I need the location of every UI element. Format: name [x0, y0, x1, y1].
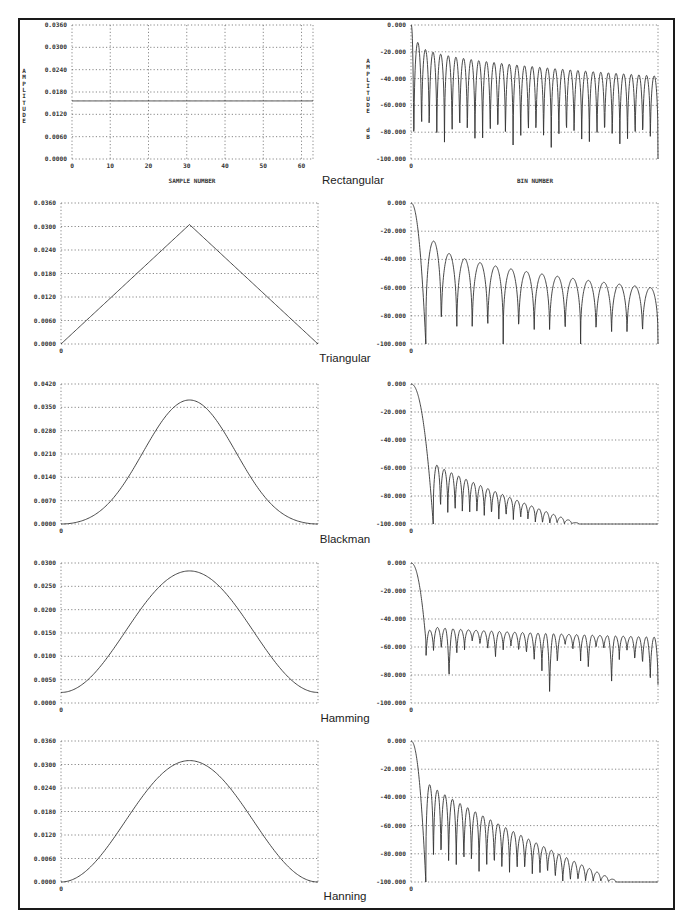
- y-tick-label-db: -40.000: [380, 436, 406, 443]
- x-tick-label: 50: [260, 162, 268, 169]
- y-tick-label: 0.0300: [34, 761, 57, 768]
- y-tick-label: 0.0240: [34, 246, 57, 253]
- y-tick-label: 0.0360: [45, 21, 68, 28]
- y-axis-label-char: B: [366, 133, 370, 140]
- y-tick-label: 0.0100: [34, 652, 57, 659]
- y-tick-label-db: -60.000: [380, 822, 406, 829]
- window-label-hanning: Hanning: [324, 890, 367, 902]
- y-tick-label-db: -40.000: [380, 75, 406, 82]
- y-tick-label: 0.0180: [45, 88, 68, 95]
- spectrum-curve: [411, 203, 658, 344]
- x-tick-label: 0: [59, 527, 63, 534]
- y-tick-label: 0.0240: [34, 784, 57, 791]
- chart-hamming-time: 0.03000.02500.02000.01500.01000.00500.00…: [34, 559, 318, 713]
- y-tick-label-db: 0.000: [387, 199, 406, 206]
- y-tick-label: 0.0300: [34, 223, 57, 230]
- y-tick-label-db: -20.000: [380, 227, 406, 234]
- y-tick-label: 0.0180: [34, 808, 57, 815]
- y-axis-label-char: E: [22, 117, 26, 124]
- spectrum-curve: [411, 25, 658, 159]
- x-tick-label: 60: [298, 162, 306, 169]
- window-label-triangular: Triangular: [319, 352, 371, 364]
- window-label-rectangular: Rectangular: [322, 174, 384, 186]
- y-tick-label-db: -80.000: [380, 128, 406, 135]
- y-tick-label: 0.0300: [34, 559, 57, 566]
- y-tick-label-db: -60.000: [380, 284, 406, 291]
- x-axis-label-bin-number: BIN NUMBER: [517, 177, 554, 184]
- x-tick-label: 0: [409, 527, 413, 534]
- x-tick-label: 20: [145, 162, 153, 169]
- y-tick-label-db: -80.000: [380, 671, 406, 678]
- x-tick-label: 0: [59, 347, 63, 354]
- x-tick-label: 0: [409, 347, 413, 354]
- y-tick-label: 0.0360: [34, 737, 57, 744]
- chart-blackman-spectrum: 0.000-20.000-40.000-60.000-80.000-100.00…: [376, 380, 658, 534]
- y-tick-label: 0.0120: [34, 831, 57, 838]
- y-tick-label: 0.0000: [45, 155, 68, 162]
- y-tick-label: 0.0060: [34, 317, 57, 324]
- y-tick-label: 0.0350: [34, 403, 57, 410]
- window-curve: [61, 400, 318, 524]
- y-tick-label-db: -100.000: [376, 340, 406, 347]
- x-axis-label-sample-number: SAMPLE NUMBER: [169, 177, 216, 184]
- y-tick-label: 0.0120: [45, 110, 68, 117]
- y-tick-label: 0.0240: [45, 66, 68, 73]
- y-tick-label-db: -60.000: [380, 101, 406, 108]
- window-curve: [61, 571, 318, 693]
- y-tick-label-db: -100.000: [376, 520, 406, 527]
- y-tick-label: 0.0280: [34, 427, 57, 434]
- x-tick-label: 0: [409, 162, 413, 169]
- y-tick-label-db: 0.000: [387, 380, 406, 387]
- y-tick-label-db: -20.000: [380, 48, 406, 55]
- x-tick-label: 40: [221, 162, 229, 169]
- window-curve: [61, 225, 318, 344]
- x-tick-label: 30: [183, 162, 191, 169]
- chart-rectangular-spectrum: 0.000-20.000-40.000-60.000-80.000-100.00…: [376, 21, 658, 169]
- y-tick-label-db: -20.000: [380, 587, 406, 594]
- y-tick-label: 0.0420: [34, 380, 57, 387]
- y-tick-label-db: -20.000: [380, 765, 406, 772]
- x-tick-label: 0: [59, 885, 63, 892]
- window-curve: [61, 761, 318, 882]
- y-tick-label-db: 0.000: [387, 737, 406, 744]
- spectrum-curve: [411, 563, 658, 691]
- spectrum-curve: [411, 741, 658, 882]
- y-tick-label-db: -80.000: [380, 850, 406, 857]
- y-tick-label-db: -80.000: [380, 492, 406, 499]
- x-tick-label: 0: [70, 162, 74, 169]
- y-axis-label-char: E: [366, 107, 370, 114]
- spectrum-curve: [411, 384, 658, 524]
- y-tick-label: 0.0060: [34, 855, 57, 862]
- y-tick-label: 0.0060: [45, 133, 68, 140]
- y-tick-label: 0.0000: [34, 520, 57, 527]
- chart-rectangular-time: 0.03600.03000.02400.01800.01200.00600.00…: [45, 21, 313, 169]
- y-tick-label: 0.0150: [34, 629, 57, 636]
- y-tick-label: 0.0000: [34, 878, 57, 885]
- y-tick-label: 0.0140: [34, 473, 57, 480]
- window-label-blackman: Blackman: [320, 533, 371, 545]
- y-tick-label: 0.0050: [34, 676, 57, 683]
- chart-blackman-time: 0.04200.03500.02800.02100.01400.00700.00…: [34, 380, 318, 534]
- chart-triangular-time: 0.03600.03000.02400.01800.01200.00600.00…: [34, 199, 318, 354]
- y-tick-label-db: -20.000: [380, 408, 406, 415]
- y-tick-label-db: -60.000: [380, 643, 406, 650]
- y-tick-label: 0.0210: [34, 450, 57, 457]
- y-tick-label: 0.0000: [34, 340, 57, 347]
- y-tick-label-db: -40.000: [380, 255, 406, 262]
- y-tick-label: 0.0300: [45, 43, 68, 50]
- y-tick-label-db: -100.000: [376, 878, 406, 885]
- window-functions-figure: 0.03600.03000.02400.01800.01200.00600.00…: [0, 0, 691, 924]
- chart-triangular-spectrum: 0.000-20.000-40.000-60.000-80.000-100.00…: [376, 199, 658, 354]
- y-tick-label: 0.0120: [34, 293, 57, 300]
- y-tick-label-db: -100.000: [376, 155, 406, 162]
- y-tick-label-db: -40.000: [380, 793, 406, 800]
- x-tick-label: 0: [409, 885, 413, 892]
- y-tick-label-db: -60.000: [380, 464, 406, 471]
- chart-hanning-time: 0.03600.03000.02400.01800.01200.00600.00…: [34, 737, 318, 892]
- y-tick-label: 0.0070: [34, 497, 57, 504]
- window-label-hamming: Hamming: [320, 712, 369, 724]
- y-tick-label: 0.0250: [34, 582, 57, 589]
- chart-hanning-spectrum: 0.000-20.000-40.000-60.000-80.000-100.00…: [376, 737, 658, 892]
- y-tick-label-db: -100.000: [376, 699, 406, 706]
- y-tick-label-db: 0.000: [387, 559, 406, 566]
